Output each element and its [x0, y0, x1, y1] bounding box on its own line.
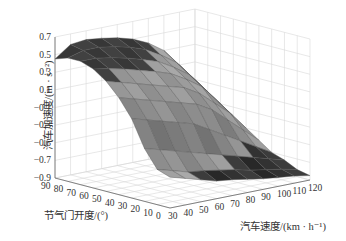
y-tick: 90 [41, 181, 51, 191]
y-tick: 70 [67, 188, 77, 198]
y-tick: 20 [130, 204, 140, 214]
x-tick: 60 [215, 202, 225, 212]
x-tick: 110 [292, 186, 306, 196]
x-tick: 30 [168, 211, 178, 221]
y-tick: 60 [79, 191, 89, 201]
x-tick: 70 [230, 199, 240, 209]
x-tick: 120 [308, 183, 322, 193]
z-axis-label: 汽车加速度/(m · s⁻²) [40, 60, 55, 150]
x-tick: 80 [246, 195, 256, 205]
y-tick: 50 [92, 194, 102, 204]
surface-chart: 0.70.50.30.1−0.1−0.3−0.5−0.7−0.9 9080706… [0, 0, 346, 241]
z-tick: 0.5 [23, 50, 51, 60]
z-tick: 0.7 [23, 32, 51, 42]
x-tick: 40 [184, 208, 194, 218]
y-tick: 0 [156, 211, 161, 221]
x-tick: 50 [199, 205, 209, 215]
x-axis-label: 汽车速度/(km · h⁻¹) [240, 218, 326, 233]
x-tick: 90 [261, 192, 271, 202]
y-tick: 10 [143, 208, 153, 218]
y-tick: 80 [54, 184, 64, 194]
z-tick: −0.7 [23, 155, 51, 165]
y-axis-label: 节气门开度/(°) [44, 207, 108, 222]
y-tick: 30 [118, 201, 128, 211]
x-tick: 100 [277, 189, 291, 199]
